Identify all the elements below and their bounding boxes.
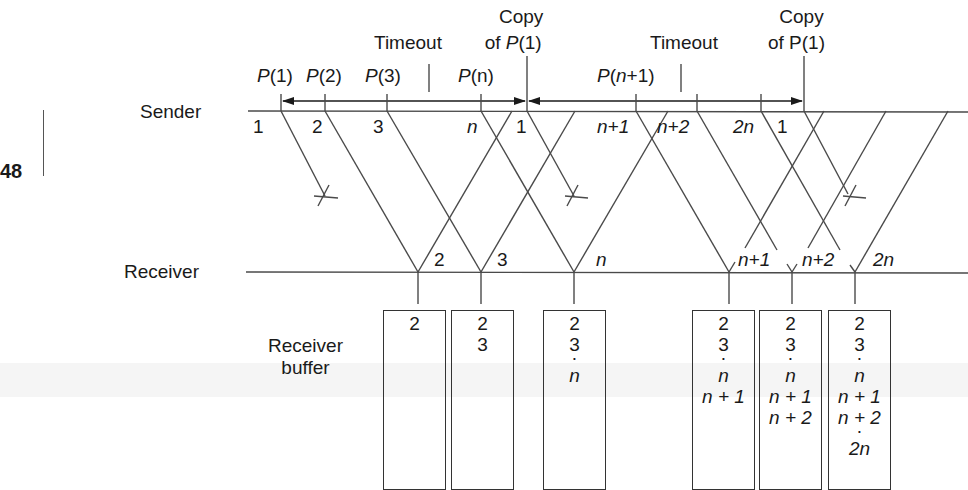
packet-1-copy2-lost	[804, 111, 848, 194]
copy-of-p1-label-1: Copy of P(1)	[483, 4, 543, 56]
timeout-label-1: Timeout	[374, 33, 442, 52]
seq-label: 3	[373, 117, 384, 136]
copy-of-p1-label-2: Copy of P(1)	[768, 4, 825, 56]
recv-seq-label: n	[596, 250, 607, 269]
ack-2	[418, 111, 512, 272]
recv-seq-label: 2	[434, 250, 445, 269]
ack-n2	[808, 111, 886, 248]
receiver-buffer: 2 3 · n	[543, 310, 606, 490]
receiver-buffer: 2 3	[451, 310, 514, 490]
seq-label: 1	[777, 117, 788, 136]
seq-label: n+1	[597, 117, 629, 136]
receiver-buffer: 2	[383, 310, 446, 490]
recv-seq-label: n+2	[802, 250, 834, 269]
recv-seq-label: 3	[497, 250, 508, 269]
seq-label: 1	[516, 117, 527, 136]
packet-label-p1: P(1)	[257, 66, 293, 85]
recv-seq-label: n+1	[738, 250, 770, 269]
receiver-buffer-label: Receiver buffer	[268, 335, 343, 379]
receiver-timeline	[246, 272, 968, 273]
packet-label-p3: P(3)	[365, 66, 401, 85]
packet-label-p2: P(2)	[306, 66, 342, 85]
sender-timeline	[248, 111, 968, 112]
seq-label: 1	[253, 117, 264, 136]
packet-2n	[761, 111, 840, 250]
receiver-label: Receiver	[124, 262, 199, 281]
sender-label: Sender	[140, 102, 201, 121]
recv-seq-label: 2n	[873, 250, 894, 269]
seq-label: 2	[312, 117, 323, 136]
seq-label: n	[467, 117, 478, 136]
receiver-buffer: 2 3 · n n + 1 n + 2	[759, 310, 822, 490]
packet-label-pn1: P(n+1)	[597, 66, 655, 85]
seq-label: n+2	[657, 117, 689, 136]
receiver-buffer: 2 3 · n n + 1 n + 2 · 2n	[828, 310, 891, 490]
receiver-buffer: 2 3 · n n + 1	[692, 310, 755, 490]
packet-2	[325, 111, 418, 272]
seq-label: 2n	[733, 117, 754, 136]
timeout-label-2: Timeout	[650, 33, 718, 52]
ack-2n	[855, 111, 948, 272]
packet-label-pn: P(n)	[458, 66, 494, 85]
